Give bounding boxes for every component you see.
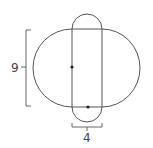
bottom-center-dot [86, 105, 89, 108]
width-label: 4 [83, 131, 91, 145]
height-label: 9 [11, 61, 19, 75]
composite-figure-diagram: 9 4 [0, 0, 153, 148]
height-bracket [21, 30, 31, 106]
large-oval-outline [33, 29, 140, 107]
center-left-dot [70, 65, 73, 68]
width-bracket [72, 123, 102, 131]
